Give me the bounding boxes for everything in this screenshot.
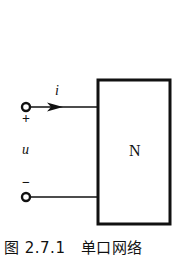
- figure-caption: 图 2.7.1 单口网络: [4, 236, 143, 257]
- network-label: N: [129, 143, 141, 159]
- top-terminal-icon: [22, 103, 30, 111]
- minus-sign: −: [22, 176, 30, 190]
- current-label: i: [55, 84, 59, 98]
- bottom-terminal-icon: [22, 193, 30, 201]
- plus-sign: +: [22, 112, 30, 126]
- voltage-label: u: [22, 143, 29, 157]
